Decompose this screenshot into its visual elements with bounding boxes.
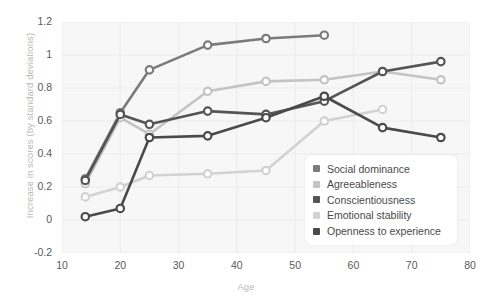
legend-item-label: Agreeableness: [327, 179, 397, 190]
x-tick-label: 40: [217, 259, 257, 271]
x-tick-label: 70: [392, 259, 432, 271]
y-tick-label: 0.4: [8, 147, 52, 159]
data-point-marker: [321, 76, 328, 83]
legend-item-label: Conscientiousness: [327, 195, 415, 206]
legend-item: Social dominance: [313, 161, 450, 177]
chart-root: Increase in scores (by standard deviatio…: [0, 0, 492, 305]
x-tick-label: 20: [100, 259, 140, 271]
data-point-marker: [117, 183, 124, 190]
x-tick-label: 60: [333, 259, 373, 271]
data-point-marker: [262, 114, 269, 121]
data-point-marker: [117, 205, 124, 212]
data-point-marker: [321, 117, 328, 124]
data-point-marker: [437, 58, 444, 65]
legend-swatch-icon: [313, 181, 320, 188]
data-point-marker: [204, 41, 211, 48]
data-point-marker: [82, 177, 89, 184]
data-point-marker: [82, 213, 89, 220]
legend-swatch-icon: [313, 212, 320, 219]
series-line: [85, 35, 324, 179]
data-point-marker: [146, 134, 153, 141]
x-tick-label: 10: [42, 259, 82, 271]
data-point-marker: [437, 134, 444, 141]
legend-swatch-icon: [313, 228, 320, 235]
data-point-marker: [379, 124, 386, 131]
legend-item-label: Emotional stability: [327, 210, 412, 221]
x-tick-label: 80: [450, 259, 490, 271]
data-point-marker: [117, 111, 124, 118]
y-tick-label: 0.2: [8, 180, 52, 192]
legend-item-label: Social dominance: [327, 164, 410, 175]
y-tick-label: 0.6: [8, 114, 52, 126]
legend-item: Openness to experience: [313, 223, 450, 239]
data-point-marker: [262, 78, 269, 85]
data-point-marker: [321, 93, 328, 100]
chart-legend: Social dominanceAgreeablenessConscientio…: [305, 155, 457, 245]
y-tick-label: 0: [8, 213, 52, 225]
legend-item-label: Openness to experience: [327, 226, 441, 237]
data-point-marker: [262, 35, 269, 42]
legend-swatch-icon: [313, 165, 320, 172]
data-point-marker: [204, 88, 211, 95]
legend-item: Agreeableness: [313, 177, 450, 193]
data-point-marker: [379, 106, 386, 113]
y-tick-label: 1: [8, 48, 52, 60]
data-point-marker: [437, 76, 444, 83]
legend-item: Emotional stability: [313, 208, 450, 224]
data-point-marker: [82, 193, 89, 200]
data-point-marker: [146, 66, 153, 73]
y-tick-label: 0.8: [8, 81, 52, 93]
legend-item: Conscientiousness: [313, 192, 450, 208]
x-axis-title: Age: [0, 281, 492, 292]
data-point-marker: [146, 172, 153, 179]
data-point-marker: [204, 170, 211, 177]
data-point-marker: [204, 132, 211, 139]
data-point-marker: [204, 107, 211, 114]
y-tick-label: -0.2: [8, 246, 52, 258]
x-tick-label: 30: [159, 259, 199, 271]
data-point-marker: [321, 32, 328, 39]
series-social-dominance: [82, 32, 328, 183]
data-point-marker: [379, 68, 386, 75]
y-tick-label: 1.2: [8, 15, 52, 27]
x-tick-label: 50: [275, 259, 315, 271]
legend-swatch-icon: [313, 196, 320, 203]
data-point-marker: [146, 121, 153, 128]
data-point-marker: [262, 167, 269, 174]
